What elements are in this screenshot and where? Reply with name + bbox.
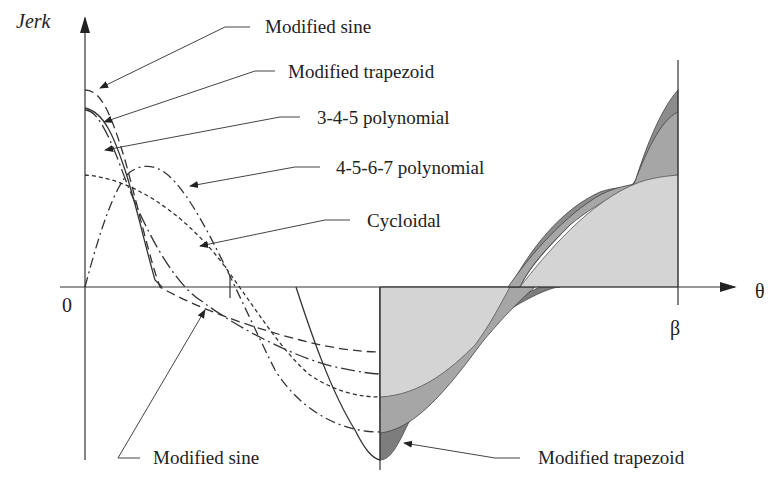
leader-modified-trapezoid-top: [104, 71, 275, 122]
beta-label: β: [670, 317, 680, 340]
curve-modified-sine: [85, 90, 380, 352]
callout-leaders: [100, 27, 520, 458]
label-modified-trapezoid-top: Modified trapezoid: [288, 61, 435, 82]
leader-modified-sine-top: [100, 27, 250, 88]
leader-345: [105, 117, 300, 150]
region-cycloidal-upper: [520, 175, 678, 287]
leader-cycloidal: [200, 220, 350, 246]
shaded-regions: [380, 90, 678, 460]
jerk-comparison-diagram: Jerk θ 0 β Modified sine Modified trapez…: [0, 0, 782, 497]
origin-label: 0: [62, 294, 72, 316]
leader-4567: [190, 167, 320, 186]
curve-modified-trapezoid: [85, 110, 380, 374]
label-modified-sine-top: Modified sine: [265, 16, 371, 37]
label-modified-sine-bottom: Modified sine: [153, 447, 259, 468]
label-345-polynomial: 3-4-5 polynomial: [317, 107, 449, 128]
curve-345-polynomial: [85, 108, 162, 287]
label-modified-trapezoid-bottom: Modified trapezoid: [538, 447, 685, 468]
curve-cycloidal: [85, 175, 380, 397]
y-axis-label: Jerk: [16, 10, 52, 32]
label-4567-polynomial: 4-5-6-7 polynomial: [336, 157, 484, 178]
x-axis-label: θ: [755, 280, 765, 302]
leader-modified-sine-bottom: [118, 310, 205, 458]
leader-modified-trapezoid-bottom: [404, 443, 520, 458]
label-cycloidal: Cycloidal: [367, 210, 441, 231]
